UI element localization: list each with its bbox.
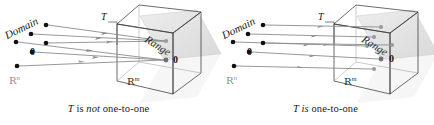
- transform-label: T: [318, 12, 324, 22]
- caption-right: T is one-to-one: [217, 103, 434, 114]
- panel-one-to-one: Domain Range T 0 0 Rn Rm T is one-to-one: [217, 0, 434, 125]
- zero-domain-label: 0: [30, 47, 35, 57]
- domain-space-label: Rn: [9, 75, 20, 86]
- transform-label: T: [101, 12, 107, 22]
- zero-range-label: 0: [389, 54, 394, 64]
- domain-space-label: Rn: [226, 75, 237, 86]
- codomain-space-label: Rm: [127, 76, 140, 87]
- figure-container: Domain Range T 0 0 Rn Rm T is not one-to…: [0, 0, 434, 125]
- transform-bracket-right: [325, 22, 334, 45]
- blackboard-r-glyph: R: [226, 75, 234, 86]
- caption-not: not: [86, 103, 100, 114]
- arrowheads-right: [297, 26, 330, 68]
- caption-rest: one-to-one: [100, 103, 149, 114]
- caption-rest: one-to-one: [309, 103, 358, 114]
- domain-space-exponent: n: [17, 74, 21, 82]
- codomain-space-label: Rm: [344, 76, 357, 87]
- blackboard-r-glyph: R: [127, 76, 135, 87]
- zero-range-label: 0: [173, 55, 178, 65]
- codomain-space-exponent: m: [352, 75, 357, 83]
- blackboard-r-glyph: R: [344, 76, 352, 87]
- caption-is: is: [74, 103, 87, 114]
- arrow-group-left: [18, 25, 164, 66]
- zero-domain-label: 0: [247, 47, 252, 57]
- blackboard-r-glyph: R: [9, 75, 17, 86]
- codomain-space-exponent: m: [135, 75, 140, 83]
- domain-space-exponent: n: [234, 74, 238, 82]
- panel-not-one-to-one: Domain Range T 0 0 Rn Rm T is not one-to…: [0, 0, 217, 125]
- caption-left: T is not one-to-one: [0, 103, 217, 114]
- caption-is: is: [299, 103, 309, 114]
